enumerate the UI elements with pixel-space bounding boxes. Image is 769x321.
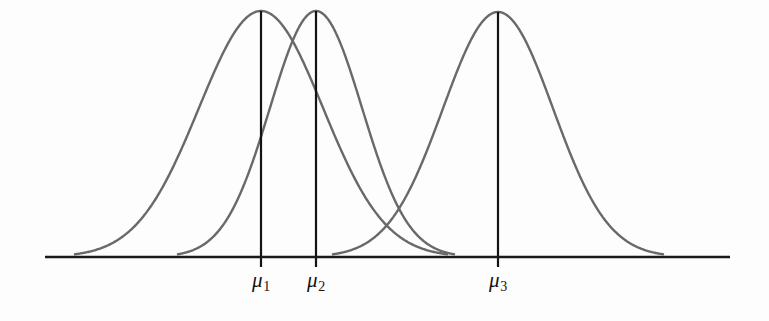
mu-2-symbol: μ (307, 268, 318, 292)
density-curves-group (75, 11, 663, 254)
mu-2-subscript: 2 (318, 279, 325, 294)
normal-distributions-figure: μ1 μ2 μ3 (0, 0, 769, 321)
mu-3-label: μ3 (489, 270, 507, 294)
mu-3-subscript: 3 (500, 279, 507, 294)
mu-1-symbol: μ (252, 268, 263, 292)
mu-1-subscript: 1 (263, 279, 270, 294)
mu-3-symbol: μ (489, 268, 500, 292)
distribution-plot (0, 0, 769, 321)
mu-1-label: μ1 (252, 270, 270, 294)
mu-2-label: μ2 (307, 270, 325, 294)
